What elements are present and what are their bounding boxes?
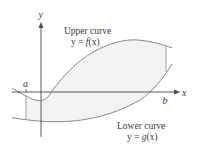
x-axis-label: x: [181, 87, 187, 98]
y-axis-arrow-icon: [39, 22, 44, 28]
upper-eq-prefix: y =: [71, 37, 86, 47]
lower-curve-equation: y = g(x): [127, 132, 158, 143]
x-axis-arrow-icon: [174, 90, 180, 95]
upper-curve-title: Upper curve: [64, 26, 111, 36]
lower-curve-title: Lower curve: [117, 121, 165, 131]
lower-eq-arg: (x): [147, 132, 158, 143]
area-between-curves-diagram: y x a b Upper curve y = f(x) Lower curve…: [0, 0, 198, 147]
y-axis-label: y: [38, 9, 44, 20]
bound-b-label: b: [163, 95, 168, 106]
upper-eq-arg: (x): [89, 37, 100, 48]
shaded-region: [26, 40, 166, 122]
bound-a-label: a: [23, 78, 28, 89]
lower-eq-prefix: y =: [127, 132, 142, 142]
upper-curve-equation: y = f(x): [71, 37, 100, 48]
